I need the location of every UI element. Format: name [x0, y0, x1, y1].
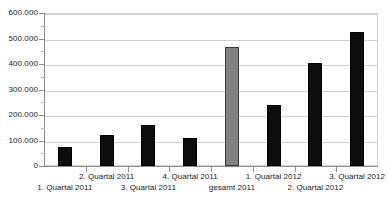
y-tick-major — [39, 90, 45, 91]
y-tick-minor — [41, 153, 45, 154]
y-axis-tick-label: 200.000 — [0, 111, 38, 119]
x-axis-category-label: 3. Quartal 2011 — [108, 183, 188, 192]
y-axis-tick-label: 500.000 — [0, 35, 38, 43]
x-axis-category-label: 3. Quartal 2012 — [317, 172, 388, 181]
x-axis-category-label: gesamt 2011 — [192, 183, 272, 192]
y-tick-major — [39, 141, 45, 142]
y-tick-major — [39, 64, 45, 65]
y-axis-tick-label: 400.000 — [0, 60, 38, 68]
gridline — [45, 116, 377, 117]
y-axis-tick-label: 0 — [0, 162, 38, 170]
bar — [183, 138, 197, 166]
y-axis-tick-label: 100.000 — [0, 137, 38, 145]
bar — [267, 105, 281, 166]
gridline — [45, 91, 377, 92]
gridline — [45, 14, 377, 15]
x-axis-category-label: 2. Quartal 2012 — [275, 183, 355, 192]
bar — [308, 63, 322, 166]
y-tick-major — [39, 39, 45, 40]
bar — [141, 125, 155, 166]
plot-area — [44, 13, 378, 166]
bar — [58, 147, 72, 166]
bar — [100, 135, 114, 166]
bar — [225, 47, 239, 166]
x-axis-category-label: 1. Quartal 2011 — [25, 183, 105, 192]
bar — [350, 32, 364, 166]
y-tick-major — [39, 166, 45, 167]
gridline — [45, 65, 377, 66]
y-axis-tick-label: 600.000 — [0, 9, 38, 17]
y-tick-minor — [41, 26, 45, 27]
bar-chart: 600.000500.000400.000300.000200.000100.0… — [0, 0, 388, 200]
y-tick-major — [39, 115, 45, 116]
x-axis-category-label: 4. Quartal 2011 — [150, 172, 230, 181]
y-tick-minor — [41, 102, 45, 103]
y-tick-minor — [41, 128, 45, 129]
y-axis-tick-label: 300.000 — [0, 86, 38, 94]
y-tick-minor — [41, 51, 45, 52]
y-tick-minor — [41, 77, 45, 78]
x-axis-category-label: 2. Quartal 2011 — [67, 172, 147, 181]
gridline — [45, 142, 377, 143]
x-axis-category-label: 1. Quartal 2012 — [234, 172, 314, 181]
gridline — [45, 40, 377, 41]
y-tick-major — [39, 13, 45, 14]
